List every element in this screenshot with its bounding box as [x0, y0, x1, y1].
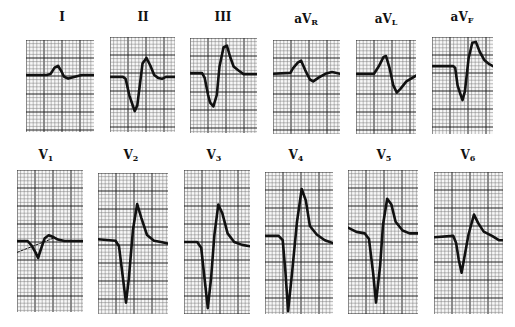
- ecg-panel-avr: [273, 40, 340, 134]
- lead-label-v6: V6: [461, 148, 476, 163]
- ecg-panel-avf: [432, 37, 493, 134]
- ecg-panel-v2: [98, 173, 168, 314]
- lead-label-iii: III: [215, 10, 232, 24]
- ecg-panel-v3: [184, 170, 250, 314]
- ecg-panel-v4: [265, 172, 333, 314]
- ecg-panel-avl: [356, 40, 416, 134]
- lead-label-v4: V4: [289, 148, 304, 163]
- lead-label-v5: V5: [377, 148, 392, 163]
- ecg-panel-v6: [434, 172, 503, 314]
- ecg-panel-i: [26, 40, 94, 132]
- lead-label-v2: V2: [124, 148, 139, 163]
- lead-label-i: I: [59, 10, 65, 24]
- ecg-panel-v5: [348, 170, 418, 314]
- ecg-panel-v1: [17, 170, 83, 312]
- lead-label-ii: II: [137, 10, 148, 24]
- ecg-panel-ii: [110, 37, 175, 132]
- lead-label-v3: V3: [207, 148, 222, 163]
- lead-label-avr: aVR: [294, 12, 318, 27]
- ecg-panel-iii: [190, 38, 257, 133]
- lead-label-avl: aVL: [375, 12, 398, 27]
- lead-label-v1: V1: [39, 148, 54, 163]
- lead-label-avf: aVF: [451, 10, 474, 25]
